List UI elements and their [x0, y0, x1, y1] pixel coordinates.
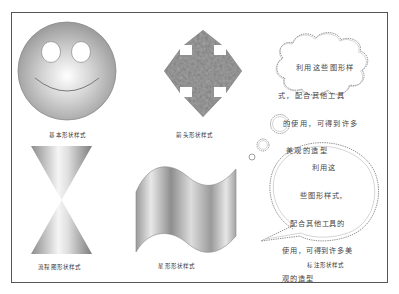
- speech-line-3: 配合其他工具的: [284, 219, 353, 228]
- caption-star-shape: 星形形状样式: [158, 262, 195, 270]
- caption-arrow-shape: 箭头形状样式: [176, 131, 213, 139]
- speech-line-4: 使用，可得到许多美: [282, 246, 353, 255]
- cloud-line-1: 利用这些图形样: [288, 63, 359, 72]
- smiley-face-shape: [18, 22, 116, 120]
- speech-line-2: 些图形样式，: [284, 191, 353, 200]
- caption-basic-shape: 基本形状样式: [49, 131, 86, 139]
- caption-flowchart-shape: 流程图形状样式: [38, 263, 81, 271]
- speech-line-5: 观的造型: [282, 274, 353, 283]
- right-eye: [72, 42, 91, 63]
- quad-arrow-shape: [164, 30, 242, 117]
- cloud-line-3: 的使用，可得到许多: [283, 119, 359, 128]
- cloud-line-2: 式，配合其他工具: [278, 91, 359, 100]
- thought-bubble-small: [249, 154, 255, 160]
- speech-line-1: 利用这: [284, 163, 353, 172]
- wave-banner-shape: [136, 167, 236, 253]
- speech-callout-text: 利用这 些图形样式， 配合其他工具的 使用，可得到许多美 观的造型: [284, 145, 353, 292]
- left-eye: [42, 42, 61, 63]
- hourglass-shape: [31, 146, 92, 254]
